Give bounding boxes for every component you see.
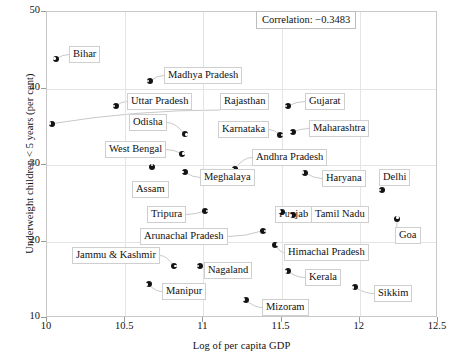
data-point-marker[interactable] bbox=[243, 297, 249, 303]
x-tick-label: 10.5 bbox=[99, 320, 149, 331]
data-point-marker[interactable] bbox=[285, 268, 291, 274]
data-point-label: Gujarat bbox=[305, 93, 345, 110]
data-point-marker[interactable] bbox=[379, 187, 385, 193]
data-point-marker[interactable] bbox=[290, 212, 296, 218]
y-tick-label: 50 bbox=[6, 4, 40, 15]
data-point-marker[interactable] bbox=[182, 169, 188, 175]
data-point-label: Meghalaya bbox=[200, 169, 255, 186]
data-point-label: Rajasthan bbox=[220, 93, 269, 110]
data-point-label: Jammu & Kashmir bbox=[72, 247, 160, 264]
data-point-label: Assam bbox=[132, 181, 169, 198]
data-point-label: Bihar bbox=[69, 46, 100, 63]
y-tick-mark bbox=[41, 317, 46, 318]
data-point-marker[interactable] bbox=[394, 216, 400, 222]
gridline-horizontal bbox=[47, 242, 436, 243]
data-point-marker[interactable] bbox=[202, 208, 208, 214]
data-point-label: Tripura bbox=[147, 206, 186, 223]
plot-area: BiharMadhya PradeshUttar PradeshRajastha… bbox=[46, 11, 437, 317]
data-point-marker[interactable] bbox=[302, 170, 308, 176]
gridline-horizontal bbox=[47, 89, 436, 90]
data-point-marker[interactable] bbox=[113, 103, 119, 109]
data-point-marker[interactable] bbox=[277, 132, 283, 138]
data-point-label: Manipur bbox=[162, 283, 206, 300]
data-point-label: Mizoram bbox=[262, 299, 309, 316]
data-point-label: Tamil Nadu bbox=[311, 206, 369, 223]
data-point-marker[interactable] bbox=[290, 129, 296, 135]
label-leader-line bbox=[228, 231, 263, 237]
y-tick-label: 20 bbox=[6, 234, 40, 245]
data-point-marker[interactable] bbox=[147, 78, 153, 84]
data-point-marker[interactable] bbox=[285, 103, 291, 109]
data-point-marker[interactable] bbox=[53, 56, 59, 62]
data-point-marker[interactable] bbox=[260, 228, 266, 234]
data-point-label: Maharashtra bbox=[309, 120, 369, 137]
data-point-label: Uttar Pradesh bbox=[127, 93, 192, 110]
data-point-marker[interactable] bbox=[179, 151, 185, 157]
data-point-label: Kerala bbox=[305, 269, 341, 286]
data-point-marker[interactable] bbox=[182, 131, 188, 137]
x-tick-label: 11 bbox=[177, 320, 227, 331]
data-point-marker[interactable] bbox=[197, 263, 203, 269]
data-point-marker[interactable] bbox=[352, 284, 358, 290]
data-point-label: Himachal Pradesh bbox=[284, 244, 369, 261]
data-point-label: Karnataka bbox=[218, 121, 269, 138]
data-point-label: Sikkim bbox=[374, 285, 412, 302]
data-point-marker[interactable] bbox=[171, 263, 177, 269]
data-point-label: Haryana bbox=[322, 170, 366, 187]
data-point-label: Nagaland bbox=[204, 262, 252, 279]
data-point-marker[interactable] bbox=[149, 164, 155, 170]
correlation-annotation: Correlation: −0.3483 bbox=[256, 11, 356, 29]
gridline-horizontal bbox=[47, 165, 436, 166]
data-point-marker[interactable] bbox=[146, 281, 152, 287]
y-tick-label: 40 bbox=[6, 81, 40, 92]
x-tick-label: 12 bbox=[334, 320, 384, 331]
x-tick-label: 12.5 bbox=[412, 320, 451, 331]
y-tick-label: 30 bbox=[6, 157, 40, 168]
data-point-label: Delhi bbox=[379, 169, 410, 186]
data-point-marker[interactable] bbox=[272, 242, 278, 248]
data-point-marker[interactable] bbox=[49, 121, 55, 127]
y-tick-label: 10 bbox=[6, 310, 40, 321]
data-point-label: Madhya Pradesh bbox=[164, 67, 242, 84]
gridline-vertical bbox=[360, 12, 361, 316]
x-tick-label: 10 bbox=[21, 320, 71, 331]
data-point-label: West Bengal bbox=[105, 141, 166, 158]
data-point-label: Arunachal Pradesh bbox=[140, 228, 228, 245]
gridline-vertical bbox=[125, 12, 126, 316]
data-point-label: Goa bbox=[395, 227, 421, 244]
data-point-marker[interactable] bbox=[279, 209, 285, 215]
data-point-label: Odisha bbox=[129, 114, 167, 131]
x-tick-label: 11.5 bbox=[256, 320, 306, 331]
data-point-label: Andhra Pradesh bbox=[252, 149, 327, 166]
